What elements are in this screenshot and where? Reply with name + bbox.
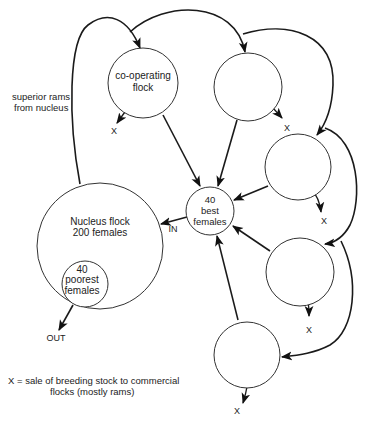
arrow-in xyxy=(161,217,187,224)
x-label-cooperating: X xyxy=(111,126,117,136)
x-label-flock3: X xyxy=(321,216,327,226)
best-label-2: best xyxy=(201,205,219,216)
arrow-flock3-to-best xyxy=(234,186,268,200)
arrow-flock4-to-best xyxy=(233,226,270,251)
node-flock-3 xyxy=(265,134,331,200)
breeding-scheme-diagram: co-operating flock Nucleus flock 200 fem… xyxy=(0,0,375,423)
x-label-flock4: X xyxy=(306,325,312,335)
arrow-cooperating-to-best xyxy=(163,115,200,186)
best-label-1: 40 xyxy=(205,194,216,205)
arc-flock3-to-flock4 xyxy=(325,128,357,244)
cooperating-label-1: co-operating xyxy=(115,70,171,81)
arc-cooperating-to-flock2 xyxy=(130,10,245,52)
x-label-flock2: X xyxy=(284,123,290,133)
arrow-flock2-to-best xyxy=(218,120,237,186)
poorest-label-2: poorest xyxy=(65,274,99,285)
out-label: OUT xyxy=(47,333,67,343)
node-flock-4 xyxy=(266,238,334,306)
arrow-flock5-to-best xyxy=(217,236,238,320)
best-label-3: females xyxy=(193,216,227,227)
x-label-flock5: X xyxy=(234,406,240,416)
node-flock-2 xyxy=(214,53,282,121)
legend-line-1: X = sale of breeding stock to commercial xyxy=(8,375,179,386)
nucleus-label-1: Nucleus flock xyxy=(70,216,130,227)
node-flock-5 xyxy=(214,322,280,388)
cooperating-label-2: flock xyxy=(133,82,155,93)
superior-rams-label-1: superior rams xyxy=(12,91,70,102)
superior-rams-label-2: from nucleus xyxy=(14,102,69,113)
legend-line-2: flocks (mostly rams) xyxy=(50,386,134,397)
poorest-label-3: females xyxy=(64,285,99,296)
in-label: IN xyxy=(169,224,178,234)
nucleus-label-2: 200 females xyxy=(73,227,127,238)
arrow-out xyxy=(59,305,73,330)
